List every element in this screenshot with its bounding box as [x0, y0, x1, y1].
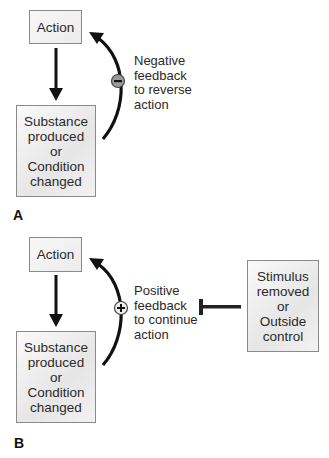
- arrows-layer: [0, 0, 329, 458]
- panel-a-down-arrow-icon: [49, 48, 63, 101]
- inhibitor-bar-icon: [199, 299, 241, 315]
- panel-b-down-arrow-icon: [49, 275, 63, 327]
- minus-icon: [112, 75, 125, 88]
- plus-icon: [115, 302, 128, 315]
